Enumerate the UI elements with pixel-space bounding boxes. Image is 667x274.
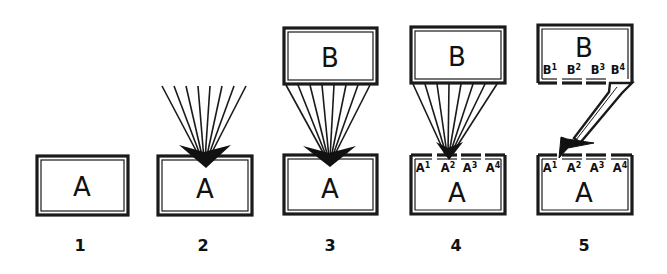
sublabel-a1: A1 <box>416 161 431 175</box>
sublabel-b1: B1 <box>543 63 558 77</box>
box-b: B <box>284 28 377 84</box>
panel-2: A 2 <box>158 86 252 255</box>
panel-1: A 1 <box>37 156 128 255</box>
sublabel-b3: B3 <box>591 63 605 77</box>
box-b: B <box>411 27 505 83</box>
sublabel-b4: B4 <box>611 63 626 77</box>
panel-3: B A 3 <box>284 28 377 255</box>
box-a-label: A <box>196 174 214 204</box>
box-a-label: A <box>448 178 466 208</box>
arrowhead-icon <box>436 142 463 160</box>
transfer-arrow <box>559 83 632 158</box>
panel-number: 2 <box>197 236 208 255</box>
box-b-label: B <box>448 42 466 72</box>
box-b-label: B <box>321 43 339 73</box>
sublabel-a1: A1 <box>543 161 558 175</box>
sublabel-a3: A3 <box>463 161 477 175</box>
box-a-label: A <box>575 178 593 208</box>
diagram-canvas: A 1 A 2 B <box>0 0 667 274</box>
converging-rays <box>162 86 246 160</box>
sublabel-b2: B2 <box>567 63 581 77</box>
panel-number: 5 <box>578 236 589 255</box>
sublabel-a2: A2 <box>441 161 455 175</box>
converging-rays <box>286 85 370 158</box>
box-a-label: A <box>73 172 91 202</box>
panel-number: 3 <box>324 236 335 255</box>
panel-4: B A1 <box>411 27 505 255</box>
box-a-segmented: A1 A2 A3 A4 A <box>538 155 632 214</box>
panel-number: 4 <box>450 236 461 255</box>
box-b-segmented: B B1 B2 B3 B4 <box>538 25 632 83</box>
box-a: A <box>37 156 128 215</box>
panel-number: 1 <box>74 236 85 255</box>
converging-rays <box>413 84 497 154</box>
box-a-segmented: A1 A2 A3 A4 A <box>411 155 505 214</box>
sublabel-a4: A4 <box>613 161 628 175</box>
panel-5: B B1 B2 B3 B4 A1 <box>538 25 632 255</box>
sublabel-a2: A2 <box>567 161 581 175</box>
box-a-label: A <box>321 174 339 204</box>
sublabel-a3: A3 <box>590 161 604 175</box>
sublabel-a4: A4 <box>486 161 501 175</box>
box-b-label: B <box>575 33 593 63</box>
